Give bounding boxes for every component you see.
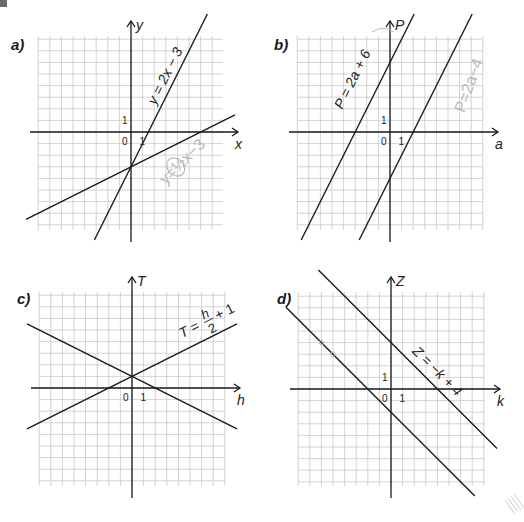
panel-c-label: c) <box>17 290 30 307</box>
panel-a-label: a) <box>11 36 24 53</box>
equation-label: P = 2a + 6 <box>331 47 374 112</box>
panel-b-label: b) <box>274 36 288 53</box>
pencil-scribble <box>505 494 524 514</box>
pencil-annotation: P=2a−4 <box>451 56 486 115</box>
exercise-graphs: xy011y = 2x − 3y=½x−3aP011P = 2a + 6P=2a… <box>0 0 524 522</box>
function-line-1 <box>318 270 497 449</box>
y-axis-label: P <box>395 17 405 33</box>
function-line-2 <box>359 14 472 240</box>
x-axis-label: h <box>237 392 245 408</box>
x-unit-label: 1 <box>141 392 147 403</box>
panel-d-label: d) <box>277 290 291 307</box>
corner-marker <box>0 0 7 7</box>
x-unit-label: 1 <box>400 393 406 404</box>
svg-text:T =: T = <box>176 317 202 341</box>
function-line-1 <box>94 14 207 240</box>
svg-text:2: 2 <box>206 320 219 337</box>
svg-text:+ 1: + 1 <box>212 300 237 323</box>
y-axis-label: T <box>137 273 147 289</box>
x-axis-label: k <box>497 393 505 409</box>
graph-panel-d: kZ011Z = −k + 4 <box>286 270 505 498</box>
origin-label: 0 <box>123 392 129 403</box>
origin-label: 0 <box>381 136 387 147</box>
graph-panel-a: xy011y = 2x − 3y=½x−3 <box>26 14 243 242</box>
origin-label: 0 <box>122 136 128 147</box>
svg-text:P=2a−4: P=2a−4 <box>451 56 486 115</box>
equation-text: P = 2a + 6 <box>331 47 374 112</box>
y-axis-label: Z <box>395 273 405 289</box>
x-axis-label: a <box>495 136 503 152</box>
y-unit-label: 1 <box>122 115 128 126</box>
origin-label: 0 <box>382 393 388 404</box>
function-line-2 <box>286 307 475 496</box>
y-unit-label: 1 <box>382 372 388 383</box>
x-unit-label: 1 <box>399 136 405 147</box>
graph-panel-c: hT01T =h2+ 1 <box>27 273 245 498</box>
y-axis-label: y <box>135 17 144 33</box>
graphs-canvas: xy011y = 2x − 3y=½x−3aP011P = 2a + 6P=2a… <box>0 0 524 522</box>
graph-panel-b: aP011P = 2a + 6P=2a−4 <box>289 14 503 242</box>
equation-label: T =h2+ 1 <box>173 294 241 349</box>
pencil-mark <box>372 28 394 32</box>
x-unit-label: 1 <box>140 136 146 147</box>
y-unit-label: 1 <box>381 115 387 126</box>
x-axis-label: x <box>234 136 243 152</box>
